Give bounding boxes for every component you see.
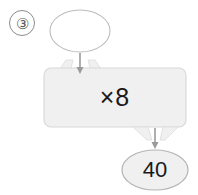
output-ellipse-value: 40 [122, 150, 188, 190]
problem-number-badge: ③ [9, 10, 35, 36]
funnel-left-wedge-bottom [133, 127, 152, 140]
input-ellipse-value[interactable] [50, 10, 110, 52]
worksheet-canvas: ③ ×8 40 [0, 0, 198, 195]
bottom-arrow-head [152, 142, 159, 149]
operation-box-label: ×8 [44, 68, 186, 127]
funnel-right-wedge-bottom [160, 127, 178, 140]
